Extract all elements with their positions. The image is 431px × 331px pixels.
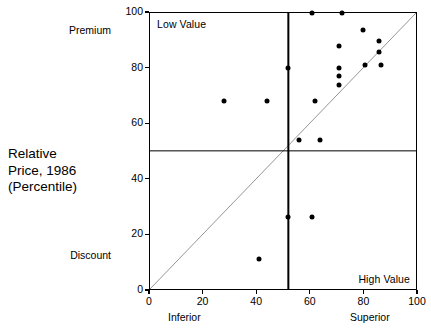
quadrant-label-low-value: Low Value: [157, 18, 206, 30]
data-point: [318, 137, 323, 142]
data-point: [363, 63, 368, 68]
y-axis-title: Relative Price, 1986 (Percentile): [8, 146, 77, 196]
data-point: [257, 256, 262, 261]
data-point: [286, 66, 291, 71]
x-axis-tick-mark: [309, 290, 310, 294]
x-axis-tick-label: 20: [187, 295, 219, 307]
x-axis-tick-label: 40: [240, 295, 272, 307]
y-axis-tick-label: 0: [109, 283, 143, 295]
data-point: [336, 82, 341, 87]
x-axis-tick-mark: [148, 290, 149, 294]
x-axis-tick-mark: [363, 290, 364, 294]
y-axis-tick-label: 60: [109, 116, 143, 128]
x-axis-tick-label: 100: [401, 295, 431, 307]
data-point: [336, 74, 341, 79]
data-point: [376, 38, 381, 43]
x-axis-tick-mark: [416, 290, 417, 294]
y-axis-tick-label: 100: [109, 5, 143, 17]
x-axis-tick-label: 60: [294, 295, 326, 307]
data-point: [310, 215, 315, 220]
y-axis-anchor-low: Discount: [70, 249, 111, 261]
x-axis-tick-label: 0: [133, 295, 165, 307]
y-axis-tick-label: 80: [109, 61, 143, 73]
x-axis-anchor-low: Inferior: [168, 311, 201, 323]
x-axis-tick-mark: [256, 290, 257, 294]
data-point: [336, 66, 341, 71]
x-axis-tick-label: 80: [347, 295, 379, 307]
data-point: [265, 99, 270, 104]
y-axis-tick-label: 40: [109, 172, 143, 184]
data-point: [379, 63, 384, 68]
x-axis-tick-mark: [202, 290, 203, 294]
y-axis-tick-label: 20: [109, 227, 143, 239]
y-axis-anchor-high: Premium: [69, 24, 111, 36]
data-point: [296, 137, 301, 142]
plot-area: Low Value High Value: [149, 12, 417, 290]
quadrant-label-high-value: High Value: [358, 273, 410, 285]
x-axis-anchor-high: Superior: [350, 311, 390, 323]
data-point: [336, 44, 341, 49]
data-point: [339, 11, 344, 16]
data-point: [360, 27, 365, 32]
data-point: [312, 99, 317, 104]
data-point: [376, 49, 381, 54]
data-point: [222, 99, 227, 104]
diagonal-parity-line: [150, 13, 416, 289]
data-point: [310, 11, 315, 16]
data-point: [286, 215, 291, 220]
